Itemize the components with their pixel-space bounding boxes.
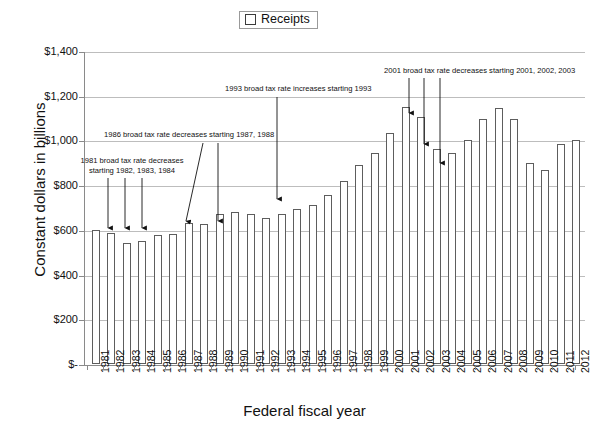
x-axis-tick-mark [304,366,305,370]
x-axis-tick-label: 2004 [455,350,467,373]
x-axis-tick-mark [428,366,429,370]
x-axis-tick-label: 1983 [130,350,142,373]
x-axis-tick-label: 1996 [331,350,343,373]
x-axis-tick-label: 1995 [316,350,328,373]
bar [355,165,363,364]
x-axis-tick-mark [242,366,243,370]
x-axis-tick-label: 1993 [285,350,297,373]
bar [495,108,503,364]
x-axis-tick-mark [103,366,104,370]
chart-root: Receipts Constant dollars in billions Fe… [0,0,609,435]
bar [309,205,317,364]
x-axis-tick-mark [413,366,414,370]
bar [169,234,177,364]
y-axis-tick-label: $800 [8,179,78,191]
x-axis-tick-label: 1992 [269,350,281,373]
x-axis-tick-mark [87,366,88,370]
x-axis-tick-label: 1999 [378,350,390,373]
bar [92,230,100,364]
bar [448,153,456,364]
x-axis-tick-mark [521,366,522,370]
bar [278,214,286,364]
bar [402,107,410,364]
x-axis-tick-mark [382,366,383,370]
y-axis-tick-label: $1,000 [8,134,78,146]
x-axis-tick-mark [258,366,259,370]
bar [433,149,441,364]
x-axis-tick-mark [149,366,150,370]
annotation-1986: 1986 broad tax rate decreases starting 1… [104,130,304,140]
x-axis-tick-label: 1987 [192,350,204,373]
x-axis-tick-mark [211,366,212,370]
x-axis-tick-mark [366,366,367,370]
x-axis-tick-label: 1986 [176,350,188,373]
x-axis-tick-mark [196,366,197,370]
bar [386,133,394,364]
x-axis-tick-mark [552,366,553,370]
x-axis-tick-mark [335,366,336,370]
bar [479,119,487,364]
legend-label-receipts: Receipts [261,13,310,26]
bar [247,214,255,364]
y-axis-tick-label: $1,200 [8,90,78,102]
x-axis-tick-label: 2011 [564,350,576,373]
bar [123,243,131,364]
annotation-1993: 1993 broad tax rate increases starting 1… [225,84,395,94]
x-axis-tick-label: 1982 [114,350,126,373]
x-axis-tick-label: 2010 [548,350,560,373]
bar [526,163,534,364]
x-axis-tick-label: 2009 [533,350,545,373]
bar [371,153,379,364]
x-axis-tick-mark [490,366,491,370]
x-axis-tick-label: 1991 [254,350,266,373]
x-axis-tick-mark [568,366,569,370]
x-axis-tick-mark [165,366,166,370]
x-axis-tick-label: 2002 [424,350,436,373]
bar [557,144,565,364]
x-axis-title: Federal fiscal year [0,402,609,419]
x-axis-tick-label: 2006 [486,350,498,373]
bar [185,223,193,364]
y-axis-tick-label: $600 [8,224,78,236]
legend-swatch-receipts [245,14,256,25]
x-axis-tick-label: 1984 [145,350,157,373]
x-axis-tick-mark [506,366,507,370]
x-axis-tick-mark [273,366,274,370]
bar [231,212,239,364]
annotation-1981: 1981 broad tax rate decreases starting 1… [72,156,192,175]
x-axis-tick-label: 1988 [207,350,219,373]
bar [154,235,162,364]
x-axis-tick-mark [397,366,398,370]
x-axis-tick-mark [118,366,119,370]
y-axis-tick-label: $400 [8,269,78,281]
bar [464,140,472,364]
x-axis-tick-mark [351,366,352,370]
bar [262,218,270,364]
x-axis-tick-mark [320,366,321,370]
bar [417,117,425,364]
plot-area [84,52,584,366]
x-axis-tick-label: 2001 [409,350,421,373]
x-axis-tick-label: 1998 [362,350,374,373]
x-axis-tick-label: 1989 [223,350,235,373]
bar [293,209,301,364]
x-axis-tick-mark [575,366,576,370]
bar [107,233,115,364]
x-axis-tick-mark [289,366,290,370]
bar [324,195,332,364]
bar-series-receipts [86,51,585,364]
bar [216,214,224,364]
x-axis-tick-mark [475,366,476,370]
x-axis-tick-label: 1990 [238,350,250,373]
bar [200,224,208,364]
annotation-2001: 2001 broad tax rate decreases starting 2… [384,66,599,76]
bar [572,140,580,364]
x-axis-tick-mark [459,366,460,370]
bar [541,170,549,365]
bar [340,181,348,364]
x-axis-tick-label: 2012 [579,350,591,373]
y-axis-tick-label: $- [8,358,78,370]
bar [510,119,518,364]
x-axis-tick-label: 1994 [300,350,312,373]
x-axis-tick-mark [444,366,445,370]
